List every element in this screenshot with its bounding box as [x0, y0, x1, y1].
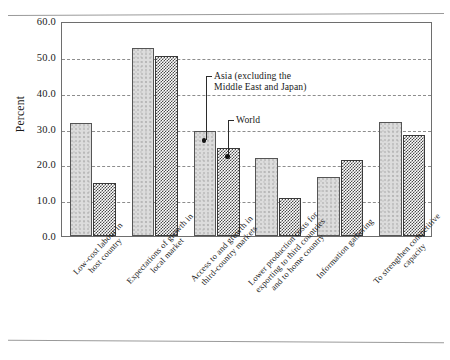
bar-world — [403, 135, 426, 236]
y-axis-tick-label: 50.0 — [37, 53, 56, 64]
bar-series-layer — [62, 23, 431, 236]
y-axis-tick-label: 10.0 — [37, 196, 56, 207]
y-axis: Percent 60.050.040.030.020.010.00.0 — [0, 0, 61, 237]
figure-top-rule — [8, 13, 444, 16]
x-axis-labels: Low-cost labour in host countryExpectati… — [0, 239, 450, 349]
plot-area — [61, 22, 432, 237]
bar-world — [217, 148, 240, 237]
bar-asia — [379, 122, 402, 236]
bar-group — [70, 23, 116, 236]
bar-world — [155, 56, 178, 236]
bar-asia — [70, 123, 93, 236]
y-axis-tick-label: 30.0 — [37, 125, 56, 136]
y-axis-title: Percent — [14, 74, 26, 154]
chart-figure: Percent 60.050.040.030.020.010.00.0 Low-… — [0, 0, 450, 360]
y-axis-tick-label: 20.0 — [37, 160, 56, 171]
y-axis-tick-label: 40.0 — [37, 89, 56, 100]
y-axis-tick-label: 60.0 — [37, 17, 56, 28]
